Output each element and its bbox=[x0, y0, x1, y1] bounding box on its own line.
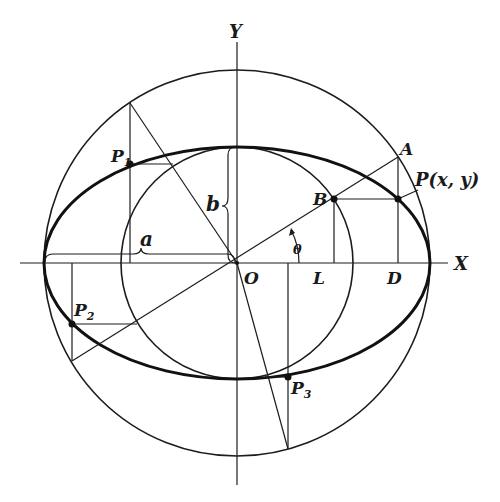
point-O bbox=[235, 261, 239, 265]
y-axis-label: Y bbox=[229, 21, 244, 42]
theta-arrowhead-icon bbox=[289, 228, 295, 236]
label-P3: P3 bbox=[290, 378, 312, 401]
label-D: D bbox=[386, 268, 402, 288]
label-P-xy: P(x, y) bbox=[414, 169, 479, 190]
point-B bbox=[331, 196, 338, 203]
radial-line-P3 bbox=[237, 263, 288, 449]
label-B: B bbox=[312, 189, 327, 209]
brace-b bbox=[222, 147, 236, 263]
x-axis-label: X bbox=[453, 253, 469, 274]
point-P2 bbox=[69, 321, 76, 328]
label-L: L bbox=[312, 268, 325, 288]
origin-label: O bbox=[244, 268, 259, 288]
label-a: a bbox=[140, 227, 153, 251]
ellipse-construction-diagram: Y X O a b θ A B P(x, y) L D P1 P2 P3 bbox=[0, 0, 500, 502]
label-P2: P2 bbox=[73, 300, 95, 323]
point-P bbox=[395, 196, 402, 203]
label-A: A bbox=[398, 139, 413, 159]
label-b: b bbox=[206, 192, 220, 216]
label-theta: θ bbox=[293, 242, 302, 257]
label-P1: P1 bbox=[110, 146, 131, 169]
